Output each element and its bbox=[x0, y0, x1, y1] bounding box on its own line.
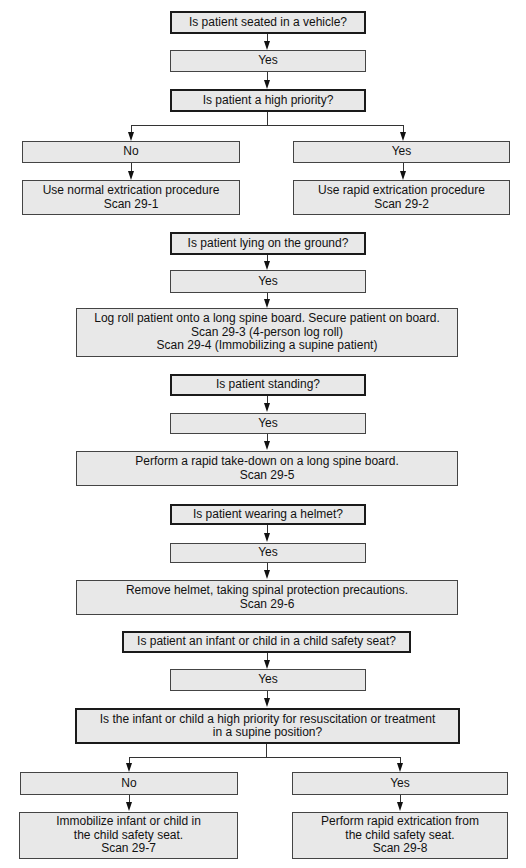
action-rapid-take-down: Perform a rapid take-down on a long spin… bbox=[76, 451, 458, 486]
action-text: the child safety seat. bbox=[345, 829, 454, 843]
question-high-priority: Is patient a high priority? bbox=[170, 89, 366, 112]
arrow-down-icon bbox=[264, 299, 270, 308]
question-child-high-priority: Is the infant or child a high priority f… bbox=[75, 708, 460, 744]
arrow-down-icon bbox=[264, 660, 270, 669]
answer-no-priority: No bbox=[22, 141, 240, 163]
question-child-safety-seat: Is patient an infant or child in a child… bbox=[122, 631, 411, 653]
arrow-down-icon bbox=[264, 698, 270, 707]
question-text: Is patient wearing a helmet? bbox=[193, 508, 343, 522]
arrow-down-icon bbox=[264, 41, 270, 50]
question-text: Is patient seated in a vehicle? bbox=[189, 16, 347, 30]
question-text: Is patient lying on the ground? bbox=[188, 237, 349, 251]
answer-text: Yes bbox=[392, 145, 412, 159]
arrow-down-icon bbox=[264, 80, 270, 89]
action-text: Perform a rapid take-down on a long spin… bbox=[135, 455, 399, 469]
answer-text: Yes bbox=[258, 54, 278, 68]
arrow-down-icon bbox=[264, 570, 270, 579]
action-text: Log roll patient onto a long spine board… bbox=[94, 312, 440, 326]
question-seated-in-vehicle: Is patient seated in a vehicle? bbox=[170, 11, 366, 34]
action-rapid-extrication: Use rapid extrication procedure Scan 29-… bbox=[293, 180, 510, 215]
answer-yes-priority: Yes bbox=[293, 141, 510, 163]
question-text: Is patient standing? bbox=[216, 378, 320, 392]
arrow-down-icon bbox=[128, 132, 134, 141]
action-log-roll: Log roll patient onto a long spine board… bbox=[76, 308, 458, 357]
arrow-down-icon bbox=[128, 171, 134, 180]
scan-reference: Scan 29-2 bbox=[374, 198, 429, 212]
branch-line bbox=[131, 125, 404, 126]
arrow-down-icon bbox=[126, 763, 132, 772]
arrow-down-icon bbox=[264, 403, 270, 412]
answer-text: Yes bbox=[258, 673, 278, 687]
connector-line bbox=[267, 112, 268, 125]
action-text: Immobilize infant or child in bbox=[56, 815, 201, 829]
question-text: in a supine position? bbox=[213, 726, 322, 740]
answer-text: Yes bbox=[258, 417, 278, 431]
answer-yes-child-priority: Yes bbox=[292, 772, 508, 795]
action-text: Remove helmet, taking spinal protection … bbox=[126, 584, 408, 598]
answer-text: Yes bbox=[390, 777, 410, 791]
answer-yes-child-seat: Yes bbox=[170, 669, 366, 691]
arrow-down-icon bbox=[264, 441, 270, 450]
question-wearing-helmet: Is patient wearing a helmet? bbox=[170, 504, 366, 525]
scan-reference: Scan 29-1 bbox=[104, 198, 159, 212]
action-text: Use normal extrication procedure bbox=[43, 184, 220, 198]
branch-line bbox=[129, 757, 401, 758]
question-standing: Is patient standing? bbox=[170, 374, 366, 396]
action-text: the child safety seat. bbox=[74, 829, 183, 843]
question-text: Is patient an infant or child in a child… bbox=[137, 635, 396, 649]
arrow-down-icon bbox=[400, 171, 406, 180]
arrow-down-icon bbox=[264, 533, 270, 542]
arrow-down-icon bbox=[126, 802, 132, 811]
action-text: Perform rapid extrication from bbox=[321, 815, 479, 829]
arrow-down-icon bbox=[397, 802, 403, 811]
answer-yes-standing: Yes bbox=[170, 413, 366, 434]
answer-yes-vehicle: Yes bbox=[170, 50, 366, 72]
answer-yes-lying: Yes bbox=[170, 270, 366, 293]
answer-no-child-priority: No bbox=[20, 772, 238, 795]
scan-reference: Scan 29-8 bbox=[373, 842, 428, 856]
arrow-down-icon bbox=[400, 132, 406, 141]
answer-text: Yes bbox=[258, 546, 278, 560]
scan-reference: Scan 29-6 bbox=[240, 598, 295, 612]
question-text: Is the infant or child a high priority f… bbox=[100, 713, 436, 727]
scan-reference: Scan 29-4 (Immobilizing a supine patient… bbox=[157, 339, 378, 353]
scan-reference: Scan 29-7 bbox=[101, 842, 156, 856]
action-immobilize-in-seat: Immobilize infant or child in the child … bbox=[19, 812, 238, 859]
scan-reference: Scan 29-3 (4-person log roll) bbox=[191, 326, 343, 340]
answer-text: Yes bbox=[258, 275, 278, 289]
action-rapid-extrication-from-seat: Perform rapid extrication from the child… bbox=[292, 812, 508, 859]
connector-line bbox=[266, 744, 267, 757]
answer-yes-helmet: Yes bbox=[170, 543, 366, 563]
arrow-down-icon bbox=[397, 763, 403, 772]
arrow-down-icon bbox=[264, 261, 270, 270]
action-remove-helmet: Remove helmet, taking spinal protection … bbox=[76, 580, 458, 615]
question-lying-on-ground: Is patient lying on the ground? bbox=[170, 232, 366, 255]
answer-text: No bbox=[123, 145, 138, 159]
question-text: Is patient a high priority? bbox=[203, 94, 334, 108]
action-normal-extrication: Use normal extrication procedure Scan 29… bbox=[22, 180, 240, 215]
action-text: Use rapid extrication procedure bbox=[318, 184, 485, 198]
scan-reference: Scan 29-5 bbox=[240, 469, 295, 483]
answer-text: No bbox=[121, 777, 136, 791]
